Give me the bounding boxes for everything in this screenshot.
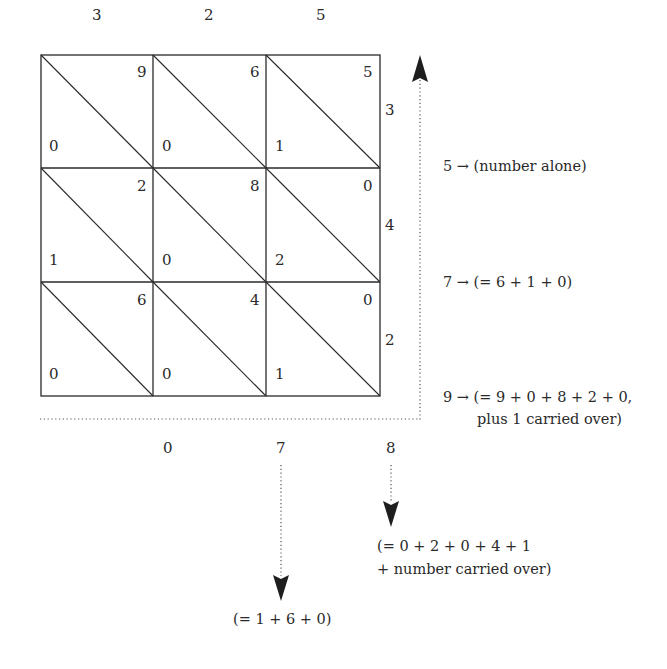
arrow-up-icon [412, 55, 428, 82]
annotation-text: (= 9 + 0 + 8 + 2 + 0, [474, 389, 633, 405]
result-digit: 8 [386, 439, 396, 457]
cell-units-digit: 0 [363, 291, 373, 309]
annotation-row: 9 → (= 9 + 0 + 8 + 2 + 0, [443, 388, 632, 406]
multiplier-digit: 2 [385, 331, 395, 349]
cell-units-digit: 8 [250, 177, 260, 195]
multiplicand-digit: 3 [92, 6, 102, 24]
annotation-text: (= 1 + 6 + 0) [233, 610, 331, 628]
right-arrow-icon: → [457, 274, 469, 290]
arrow-down-icon [383, 501, 399, 527]
annotation-text: (number alone) [474, 158, 587, 174]
result-digit: 0 [163, 439, 173, 457]
multiplier-digit: 3 [385, 101, 395, 119]
multiplicand-digit: 2 [204, 6, 214, 24]
cell-tens-digit: 1 [275, 365, 285, 383]
cell-units-digit: 6 [250, 63, 260, 81]
cell-tens-digit: 1 [275, 137, 285, 155]
annotation-row: 5 → (number alone) [443, 157, 587, 175]
result-digit: 7 [276, 439, 286, 457]
lattice-diagram [0, 0, 667, 669]
cell-units-digit: 0 [363, 177, 373, 195]
annotation-text: + number carried over) [377, 560, 551, 578]
cell-tens-digit: 0 [49, 137, 59, 155]
annotation-row: 7 → (= 6 + 1 + 0) [443, 273, 572, 291]
arrow-down-icon [273, 575, 289, 601]
multiplier-digit: 4 [385, 216, 395, 234]
annotation-digit: 7 [443, 274, 452, 290]
cell-units-digit: 9 [137, 63, 147, 81]
cell-tens-digit: 1 [49, 251, 59, 269]
cell-tens-digit: 0 [49, 365, 59, 383]
cell-tens-digit: 0 [162, 137, 172, 155]
cell-units-digit: 4 [250, 291, 260, 309]
cell-units-digit: 2 [137, 177, 147, 195]
cell-diagonals [41, 55, 380, 396]
cell-tens-digit: 0 [162, 365, 172, 383]
right-arrow-icon: → [457, 389, 469, 405]
right-arrow-icon: → [457, 158, 469, 174]
annotation-text: (= 0 + 2 + 0 + 4 + 1 [377, 537, 531, 555]
dotted-guides [40, 80, 420, 576]
cell-tens-digit: 2 [275, 251, 285, 269]
cell-units-digit: 6 [137, 291, 147, 309]
cell-units-digit: 5 [363, 63, 373, 81]
annotation-digit: 9 [443, 389, 452, 405]
annotation-digit: 5 [443, 158, 452, 174]
cell-tens-digit: 0 [162, 251, 172, 269]
multiplicand-digit: 5 [316, 6, 326, 24]
annotation-text: (= 6 + 1 + 0) [474, 274, 572, 290]
arrowheads [273, 55, 428, 601]
annotation-text-cont: plus 1 carried over) [477, 410, 622, 428]
